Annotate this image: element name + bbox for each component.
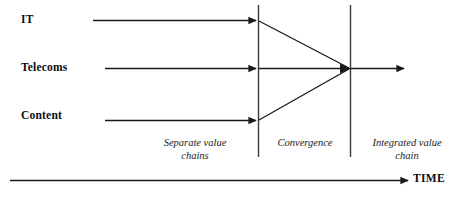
arrow-content-converging bbox=[259, 69, 349, 120]
stream-label-it: IT bbox=[21, 13, 34, 25]
convergence-point-arrowhead bbox=[340, 64, 351, 73]
stream-label-content: Content bbox=[21, 109, 62, 121]
time-axis-label: TIME bbox=[413, 172, 445, 184]
phase-label-integrated-value-chain: Integrated value chain bbox=[356, 137, 458, 162]
diagram-vector-layer bbox=[0, 0, 461, 197]
arrow-it-converging bbox=[259, 21, 349, 68]
phase-label-separate-value-chains: Separate value chains bbox=[134, 137, 256, 162]
stream-label-telecoms: Telecoms bbox=[21, 61, 68, 73]
phase-label-convergence: Convergence bbox=[262, 137, 348, 150]
diagram-canvas: IT Telecoms Content Separate value chain… bbox=[0, 0, 461, 197]
